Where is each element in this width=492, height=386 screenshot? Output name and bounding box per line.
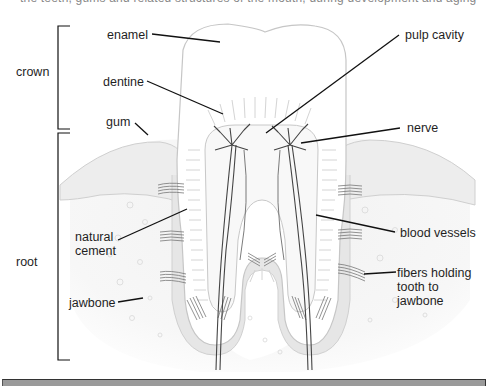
label-fibers-line3: jawbone [397, 294, 444, 308]
label-fibers-line2: tooth to [397, 280, 439, 294]
label-natural-cement-line2: cement [75, 244, 116, 258]
root-bracket [58, 133, 70, 360]
crown-bracket [58, 26, 70, 129]
label-gum: gum [106, 115, 130, 129]
label-pulp-cavity: pulp cavity [405, 28, 464, 42]
label-nerve: nerve [407, 121, 438, 135]
label-natural-cement-line1: natural [75, 230, 113, 244]
tooth [177, 24, 346, 345]
bottom-bar [2, 379, 486, 386]
label-crown: crown [16, 65, 49, 79]
label-blood-vessels: blood vessels [400, 226, 476, 240]
label-enamel: enamel [107, 28, 148, 42]
label-fibers-line1: fibers holding [397, 266, 471, 280]
leader-gum [135, 123, 148, 135]
label-jawbone: jawbone [69, 296, 116, 310]
label-root: root [16, 255, 38, 269]
label-dentine: dentine [103, 75, 144, 89]
